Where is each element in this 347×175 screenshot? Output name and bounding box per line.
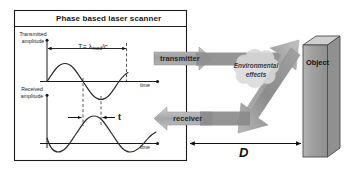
bottom-plot-y-label-line1: Received (15, 86, 49, 93)
bottom-plot-y-label-line2: amplitude (15, 93, 49, 100)
object-box (303, 36, 340, 157)
period-formula-suffix: /c (102, 42, 108, 51)
inbound-beam-shaft (200, 112, 250, 126)
phase-shift-label: t (118, 113, 121, 122)
page-title: Phase based laser scanner (56, 15, 161, 23)
receiver-label: receiver (173, 115, 202, 123)
phase-laser-scanner-figure: Phase based laser scanner Transmitted am… (0, 0, 347, 175)
bottom-plot-x-label: time (140, 145, 150, 150)
top-plot-x-label: time (140, 83, 150, 88)
period-formula-subscript: mod (92, 45, 102, 51)
diagram-canvas (0, 0, 347, 175)
period-formula-prefix: T= λ (78, 42, 92, 51)
top-plot-y-label-line1: Transmitted (16, 31, 50, 38)
top-plot-y-label-line2: amplitude (16, 38, 50, 45)
distance-label: D (239, 146, 248, 159)
top-plot-x-axis-cap (156, 80, 159, 83)
transmitter-label: transmitter (160, 55, 200, 63)
bottom-plot-x-axis-cap (156, 142, 159, 145)
object-side-face (328, 36, 341, 157)
period-formula: T= λmod/c (78, 43, 108, 51)
object-label: Object (306, 59, 329, 66)
environmental-effects-label-line1: Environmental (222, 61, 290, 70)
environmental-effects-label-line2: effects (222, 70, 290, 79)
